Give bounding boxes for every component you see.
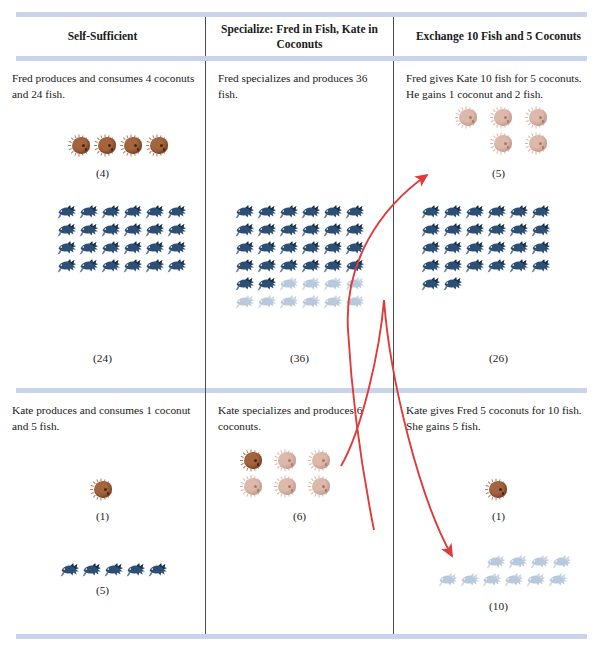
coconut-icon xyxy=(487,479,509,499)
fish-icon xyxy=(506,553,528,571)
fish-group xyxy=(58,561,170,579)
coconut-icon xyxy=(310,476,332,496)
coconut-icon xyxy=(527,107,549,127)
fish-icon xyxy=(343,221,365,239)
fish-icon xyxy=(463,203,485,221)
coconut-icon xyxy=(310,450,332,470)
fish-icon xyxy=(529,221,551,239)
fish-icon xyxy=(99,203,121,221)
cell-fred-specialize: Fred specializes and produces 36 fish. (… xyxy=(206,61,393,388)
coconut-count-label: (1) xyxy=(0,510,205,522)
fish-icon xyxy=(299,221,321,239)
coconut-icon xyxy=(492,107,514,127)
fish-icon xyxy=(299,275,321,293)
fish-icon xyxy=(165,221,187,239)
fish-icon xyxy=(255,239,277,257)
coconut-icon xyxy=(492,133,514,153)
fish-count-label: (10) xyxy=(394,600,603,612)
fish-icon xyxy=(121,239,143,257)
fish-icon xyxy=(463,221,485,239)
fish-icon xyxy=(277,203,299,221)
fish-icon xyxy=(529,257,551,275)
fish-icon xyxy=(419,203,441,221)
fish-icon xyxy=(233,257,255,275)
fish-icon xyxy=(343,239,365,257)
fish-icon xyxy=(485,203,507,221)
fish-icon xyxy=(299,257,321,275)
fish-group-row-a xyxy=(436,553,572,589)
fish-icon xyxy=(507,239,529,257)
coconut-icon xyxy=(96,135,118,155)
fish-icon xyxy=(507,257,529,275)
fish-icon xyxy=(77,221,99,239)
fish-icon xyxy=(299,293,321,311)
fish-icon xyxy=(277,239,299,257)
fish-count-label: (26) xyxy=(394,352,603,364)
fish-icon xyxy=(507,221,529,239)
fish-icon xyxy=(529,239,551,257)
fish-icon xyxy=(299,239,321,257)
fish-icon xyxy=(419,239,441,257)
fish-count-label: (5) xyxy=(0,584,205,596)
coconut-group xyxy=(451,107,549,153)
fish-icon xyxy=(321,239,343,257)
fish-icon xyxy=(484,553,506,571)
fish-icon xyxy=(146,561,168,579)
fish-icon xyxy=(485,239,507,257)
coconut-icon xyxy=(148,135,170,155)
fish-icon xyxy=(255,221,277,239)
fish-icon xyxy=(502,571,524,589)
fish-icon xyxy=(546,571,568,589)
fish-icon xyxy=(143,239,165,257)
fish-icon xyxy=(419,221,441,239)
fish-icon xyxy=(165,239,187,257)
fish-icon xyxy=(321,221,343,239)
figure-page: Self-Sufficient Specialize: Fred in Fish… xyxy=(0,0,603,655)
fish-icon xyxy=(321,275,343,293)
coconut-count-label: (6) xyxy=(206,510,393,522)
coconut-icon xyxy=(92,479,114,499)
fish-icon xyxy=(77,203,99,221)
fish-icon xyxy=(102,561,124,579)
coconut-group xyxy=(70,135,174,155)
cell-kate-specialize: Kate specializes and produces 6 coconuts… xyxy=(206,393,393,634)
fish-icon xyxy=(99,239,121,257)
fish-icon xyxy=(143,221,165,239)
fish-icon xyxy=(77,239,99,257)
fish-group xyxy=(55,203,187,275)
fish-icon xyxy=(233,203,255,221)
fish-icon xyxy=(255,257,277,275)
fish-icon xyxy=(55,203,77,221)
fish-icon xyxy=(321,293,343,311)
fish-icon xyxy=(277,257,299,275)
fish-icon xyxy=(121,257,143,275)
fish-count-label: (36) xyxy=(206,352,393,364)
fish-icon xyxy=(441,221,463,239)
fish-icon xyxy=(507,203,529,221)
fish-icon xyxy=(343,275,365,293)
coconut-icon xyxy=(242,476,264,496)
fish-group xyxy=(419,203,551,293)
fish-icon xyxy=(255,293,277,311)
coconut-count-label: (4) xyxy=(0,167,205,179)
fish-icon xyxy=(55,239,77,257)
fish-icon xyxy=(233,293,255,311)
fish-icon xyxy=(143,203,165,221)
coconut-icon xyxy=(276,450,298,470)
fish-icon xyxy=(343,257,365,275)
fish-icon xyxy=(233,275,255,293)
coconut-icon xyxy=(70,135,92,155)
coconut-count-label: (5) xyxy=(394,167,603,179)
fish-icon xyxy=(480,571,502,589)
fish-icon xyxy=(524,571,546,589)
fish-icon xyxy=(277,221,299,239)
fish-icon xyxy=(529,203,551,221)
fish-icon xyxy=(485,221,507,239)
coconut-group xyxy=(242,450,346,496)
fish-icon xyxy=(99,221,121,239)
fish-icon xyxy=(441,239,463,257)
fish-icon xyxy=(277,293,299,311)
column-header-specialize: Specialize: Fred in Fish, Kate in Coconu… xyxy=(206,17,393,56)
fish-icon xyxy=(441,203,463,221)
fish-icon xyxy=(419,275,441,293)
